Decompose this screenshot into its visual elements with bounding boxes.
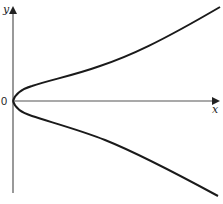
- x-axis-label: x: [212, 103, 219, 116]
- curve-upper-branch: [13, 7, 220, 101]
- curve-lower-branch: [13, 101, 218, 196]
- y-axis-label: y: [2, 3, 10, 16]
- graph-canvas: y x 0: [0, 0, 223, 204]
- origin-label: 0: [1, 95, 7, 107]
